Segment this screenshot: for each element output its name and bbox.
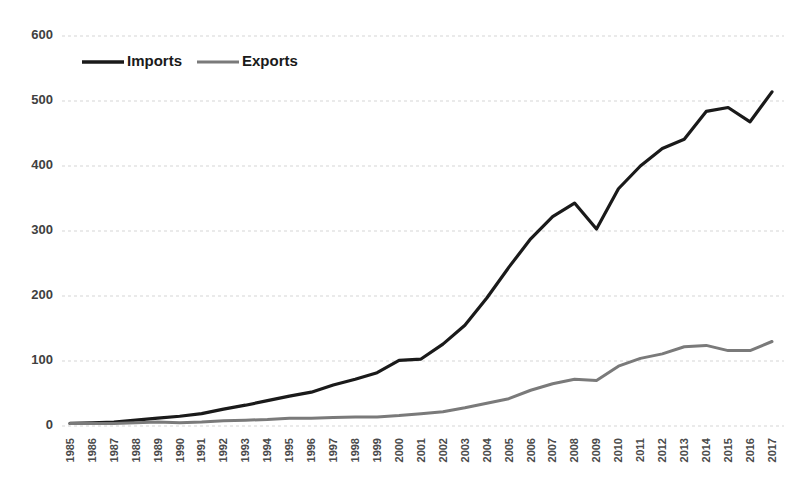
x-tick-label-2008: 2008 [568, 438, 580, 462]
x-tick-label-1988: 1988 [130, 438, 142, 462]
y-tick-label-0: 0 [46, 417, 53, 432]
x-tick-label-1987: 1987 [108, 438, 120, 462]
x-tick-label-1996: 1996 [305, 438, 317, 462]
legend-label-imports: Imports [127, 52, 182, 69]
x-tick-label-2001: 2001 [415, 438, 427, 462]
x-tick-label-2013: 2013 [678, 438, 690, 462]
x-tick-label-2010: 2010 [612, 438, 624, 462]
x-tick-label-1998: 1998 [349, 438, 361, 462]
x-tick-label-2017: 2017 [766, 438, 778, 462]
x-tick-label-1992: 1992 [217, 438, 229, 462]
legend-label-exports: Exports [242, 52, 298, 69]
x-tick-label-1986: 1986 [86, 438, 98, 462]
x-tick-label-1985: 1985 [64, 438, 76, 462]
x-tick-label-1997: 1997 [327, 438, 339, 462]
y-tick-label-300: 300 [31, 222, 53, 237]
y-tick-label-500: 500 [31, 92, 53, 107]
x-tick-label-1994: 1994 [261, 437, 273, 462]
x-tick-label-2005: 2005 [503, 438, 515, 462]
y-tick-label-200: 200 [31, 287, 53, 302]
x-tick-label-1993: 1993 [239, 438, 251, 462]
y-tick-label-600: 600 [31, 27, 53, 42]
x-tick-label-2002: 2002 [437, 438, 449, 462]
chart-canvas: 0100200300400500600 19851986198719881989… [0, 0, 802, 482]
x-tick-label-1995: 1995 [283, 438, 295, 462]
x-tick-label-2004: 2004 [481, 437, 493, 462]
line-chart: 0100200300400500600 19851986198719881989… [0, 0, 802, 482]
x-tick-label-2011: 2011 [634, 438, 646, 462]
chart-background [0, 0, 802, 482]
x-tick-label-2003: 2003 [459, 438, 471, 462]
x-tick-label-1990: 1990 [174, 438, 186, 462]
x-tick-label-2000: 2000 [393, 438, 405, 462]
x-tick-label-2007: 2007 [546, 438, 558, 462]
x-tick-label-1999: 1999 [371, 438, 383, 462]
y-tick-label-400: 400 [31, 157, 53, 172]
x-tick-label-1989: 1989 [152, 438, 164, 462]
x-tick-label-2016: 2016 [744, 438, 756, 462]
x-tick-label-1991: 1991 [195, 438, 207, 462]
x-tick-label-2015: 2015 [722, 438, 734, 462]
x-tick-label-2014: 2014 [700, 437, 712, 462]
x-tick-label-2012: 2012 [656, 438, 668, 462]
x-tick-label-2006: 2006 [525, 438, 537, 462]
x-tick-label-2009: 2009 [590, 438, 602, 462]
y-tick-label-100: 100 [31, 352, 53, 367]
